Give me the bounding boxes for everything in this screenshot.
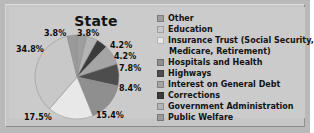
legend-item-label: Government Administration	[168, 101, 294, 112]
pie-percent-label: 3.8%	[44, 29, 66, 38]
legend-item[interactable]: Other	[157, 13, 309, 24]
pie-percent-label: 17.5%	[24, 113, 52, 122]
chart-legend: OtherEducationInsurance Trust (Social Se…	[157, 13, 309, 123]
pie-percent-label: 15.4%	[96, 111, 124, 120]
pie-percent-label: 4.2%	[110, 41, 132, 50]
legend-item[interactable]: Government Administration	[157, 101, 309, 112]
chart-frame: State 3.8%3.8%4.2%4.2%7.8%8.4%15.4%17.5%…	[0, 0, 310, 133]
pie-percent-label: 34.8%	[16, 45, 44, 54]
legend-swatch-icon	[157, 59, 164, 66]
legend-item[interactable]: Hospitals and Health	[157, 57, 309, 68]
chart-canvas: State 3.8%3.8%4.2%4.2%7.8%8.4%15.4%17.5%…	[9, 7, 305, 118]
legend-item-label: Public Welfare	[168, 112, 233, 123]
legend-item-label-line2: Medicare, Retirement)	[157, 46, 271, 57]
pie-percent-label: 7.8%	[119, 64, 141, 73]
legend-item[interactable]: Insurance Trust (Social Security,	[157, 35, 309, 46]
pie-slices	[35, 35, 119, 119]
legend-swatch-icon	[157, 81, 164, 88]
legend-swatch-icon	[157, 15, 164, 22]
legend-item[interactable]: Public Welfare	[157, 112, 309, 123]
legend-item[interactable]: Education	[157, 24, 309, 35]
legend-item-label: Highways	[168, 68, 211, 79]
legend-swatch-icon	[157, 26, 164, 33]
pie-percent-label: 3.8%	[77, 29, 99, 38]
legend-swatch-icon	[157, 92, 164, 99]
chart-plate: State 3.8%3.8%4.2%4.2%7.8%8.4%15.4%17.5%…	[5, 4, 305, 127]
legend-swatch-icon	[157, 114, 164, 121]
legend-item-label: Other	[168, 13, 194, 24]
pie-chart: 3.8%3.8%4.2%4.2%7.8%8.4%15.4%17.5%34.8%	[15, 27, 163, 133]
legend-item[interactable]: Highways	[157, 68, 309, 79]
legend-swatch-icon	[157, 70, 164, 77]
pie-percent-label: 8.4%	[119, 84, 141, 93]
legend-item-continuation: Medicare, Retirement)	[157, 46, 309, 57]
chart-title: State	[51, 14, 141, 28]
legend-item[interactable]: Corrections	[157, 90, 309, 101]
pie-percent-label: 4.2%	[114, 52, 136, 61]
legend-item[interactable]: Interest on General Debt	[157, 79, 309, 90]
legend-item-label: Corrections	[168, 90, 220, 101]
legend-item-label: Education	[168, 24, 213, 35]
legend-swatch-icon	[157, 103, 164, 110]
legend-item-label: Hospitals and Health	[168, 57, 262, 68]
legend-item-label: Interest on General Debt	[168, 79, 280, 90]
legend-item-label: Insurance Trust (Social Security,	[168, 35, 310, 46]
legend-swatch-icon	[157, 37, 164, 44]
